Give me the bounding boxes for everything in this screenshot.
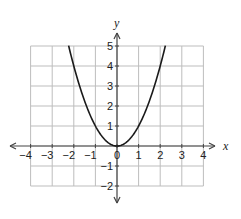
y-axis-label: y (113, 16, 120, 30)
y-tick-label: 4 (107, 60, 113, 72)
x-axis-label: x (222, 139, 229, 153)
x-tick-label: 2 (157, 149, 163, 161)
x-tick-label: 0 (114, 149, 120, 161)
y-tick-label: 1 (107, 120, 113, 132)
y-tick-label: 5 (107, 40, 113, 52)
x-tick-label: −3 (41, 149, 54, 161)
x-tick-label: −2 (63, 149, 76, 161)
parabola-chart: −4−3−2−101234−2−112345xy (0, 0, 241, 219)
y-tick-label: 3 (107, 80, 113, 92)
x-tick-label: 4 (200, 149, 206, 161)
x-tick-label: −1 (84, 149, 97, 161)
y-tick-label: 2 (107, 100, 113, 112)
axes (10, 33, 215, 203)
x-tick-label: 1 (136, 149, 142, 161)
x-tick-label: −4 (19, 149, 32, 161)
y-tick-label: −2 (100, 180, 113, 192)
y-tick-label: −1 (100, 160, 113, 172)
x-tick-label: 3 (179, 149, 185, 161)
